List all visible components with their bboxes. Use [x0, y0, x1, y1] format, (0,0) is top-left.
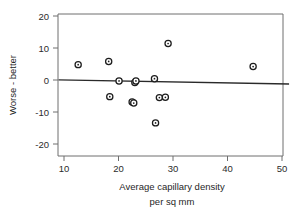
y-tick-label-minus-20: -20 — [35, 139, 49, 150]
data-point-center — [155, 122, 157, 124]
y-tick-label-minus-10: -10 — [35, 107, 49, 118]
data-point-center — [109, 96, 111, 98]
y-tick-label-10: 10 — [38, 43, 49, 54]
scatter-plot-figure: 20 10 0 -10 -20 10 20 30 40 50 Average c… — [0, 0, 301, 214]
data-point-center — [167, 43, 169, 45]
x-axis-title-line1: Average capillary density — [119, 181, 225, 192]
plot-canvas: 20 10 0 -10 -20 10 20 30 40 50 Average c… — [0, 0, 301, 214]
data-point-center — [154, 78, 156, 80]
data-point-center — [133, 102, 135, 104]
data-point-center — [108, 61, 110, 63]
y-tick-label-20: 20 — [38, 11, 49, 22]
x-tick-label-20: 20 — [113, 163, 124, 174]
x-tick-label-10: 10 — [59, 163, 70, 174]
data-point-center — [165, 96, 167, 98]
y-axis-title: Worse - better — [7, 55, 18, 115]
data-point-center — [118, 80, 120, 82]
data-point-center — [252, 66, 254, 68]
y-axis-title-label: Worse - better — [7, 55, 18, 115]
data-point-center — [159, 97, 161, 99]
data-point-center — [135, 80, 137, 82]
data-point-center — [77, 64, 79, 66]
y-tick-label-0: 0 — [44, 75, 49, 86]
x-tick-label-40: 40 — [222, 163, 233, 174]
x-tick-label-50: 50 — [277, 163, 288, 174]
x-tick-label-30: 30 — [168, 163, 179, 174]
x-axis-title-line2: per sq mm — [150, 196, 195, 207]
